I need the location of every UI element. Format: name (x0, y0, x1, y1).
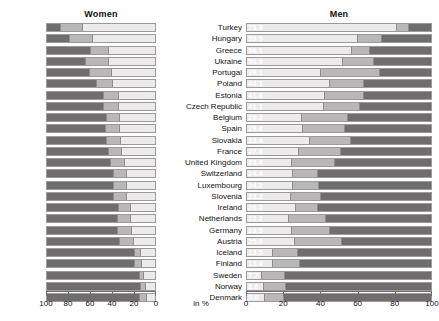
segment-divider (126, 182, 127, 189)
category-label: Ukraine (160, 56, 242, 67)
bar-men (246, 158, 432, 167)
bar-value-men: 7.7 (248, 270, 258, 281)
segment-divider (381, 35, 382, 42)
axis-tick-label: 60 (86, 299, 95, 308)
segment-divider (111, 69, 112, 76)
bar-segment-1 (83, 24, 155, 31)
category-label: Portugal (160, 67, 242, 78)
category-label: Norway (160, 281, 242, 292)
chart-row: 31.1Slovakia33.4 (0, 135, 437, 146)
axis-tick (134, 291, 135, 296)
bar-value-men: 24.2 (248, 180, 263, 191)
segment-divider (133, 238, 134, 245)
segment-divider (140, 249, 141, 256)
segment-divider (298, 148, 299, 155)
chart-rows: 65.3Turkey79.956.0Hungary59.042.0Greece5… (0, 22, 437, 303)
chart-row: 56.0Hungary59.0 (0, 33, 437, 44)
bar-men (246, 248, 432, 257)
bar-men (246, 91, 432, 100)
bar-women (46, 34, 156, 43)
axis-tick-label: 100 (425, 299, 438, 308)
segment-divider (297, 249, 298, 256)
chart-row: 18.7Austria25.0 (0, 236, 437, 247)
segment-divider (113, 182, 114, 189)
segment-divider (106, 137, 107, 144)
segment-divider (130, 215, 131, 222)
segment-divider (347, 114, 348, 121)
chart-row: 38.7Portugal39.1 (0, 67, 437, 78)
chart-row: 12.4Iceland13.5 (0, 247, 437, 258)
chart-row: 27.1United Kingdom23.4 (0, 157, 437, 168)
bar-men (246, 192, 432, 201)
axis-tick (283, 291, 284, 296)
panel-title-men: Men (246, 9, 432, 19)
bar-segment-1 (127, 193, 155, 200)
bar-men (246, 46, 432, 55)
chart-row: 25.4Luxembourg24.2 (0, 180, 437, 191)
chart-row: 32.2Belgium29.2 (0, 112, 437, 123)
segment-divider (118, 103, 119, 110)
axis-unit-label: in % (160, 299, 242, 308)
bar-segment-1 (132, 227, 155, 234)
segment-divider (329, 80, 330, 87)
segment-divider (295, 204, 296, 211)
bar-men (246, 23, 432, 32)
bar-value-men: 39.1 (248, 67, 263, 78)
bar-segment-1 (144, 272, 155, 279)
chart-row: 37.9Poland44.1 (0, 78, 437, 89)
bar-value-men: 44.1 (248, 78, 263, 89)
bar-women (46, 113, 156, 122)
segment-divider (369, 47, 370, 54)
bar-women (46, 91, 156, 100)
axis-tick-label: 0 (244, 299, 248, 308)
segment-divider (134, 249, 135, 256)
bar-women (46, 169, 156, 178)
segment-divider (317, 170, 318, 177)
category-label: Slovakia (160, 135, 242, 146)
segment-divider (334, 159, 335, 166)
bar-segment-1 (127, 182, 155, 189)
segment-divider (359, 103, 360, 110)
segment-divider (92, 35, 93, 42)
bar-segment-1 (247, 35, 357, 42)
category-label: Belgium (160, 112, 242, 123)
bar-value-men: 27.3 (248, 146, 263, 157)
segment-divider (118, 204, 119, 211)
x-axis-men (246, 291, 432, 297)
segment-divider (108, 58, 109, 65)
segment-divider (85, 58, 86, 65)
bar-women (46, 79, 156, 88)
x-axis-labels-men: 020406080100 (246, 299, 432, 311)
bar-men (246, 203, 432, 212)
bar-segment-1 (109, 47, 155, 54)
segment-divider (106, 114, 107, 121)
bar-segment-1 (122, 148, 155, 155)
bar-women (46, 23, 156, 32)
segment-divider (141, 260, 142, 267)
axis-tick-label: 20 (279, 299, 288, 308)
chart-row: 33.1Estonia41.3 (0, 90, 437, 101)
bar-women (46, 181, 156, 190)
segment-divider (119, 114, 120, 121)
segment-divider (82, 24, 83, 31)
bar-segment-1 (119, 92, 155, 99)
bar-segment-1 (142, 260, 155, 267)
category-label: Poland (160, 78, 242, 89)
bar-women (46, 203, 156, 212)
segment-divider (290, 193, 291, 200)
chart-row: 41.7Ukraine50.9 (0, 56, 437, 67)
segment-divider (288, 215, 289, 222)
category-label: Spain (160, 123, 242, 134)
bar-men (246, 68, 432, 77)
segment-divider (108, 148, 109, 155)
chart-row: 20.9Germany23.5 (0, 225, 437, 236)
segment-divider (299, 260, 300, 267)
segment-divider (105, 125, 106, 132)
bar-value-men: 59.0 (248, 33, 263, 44)
bar-value-men: 41.1 (248, 101, 263, 112)
segment-divider (119, 238, 120, 245)
segment-divider (121, 148, 122, 155)
bar-women (46, 282, 156, 291)
segment-divider (96, 80, 97, 87)
